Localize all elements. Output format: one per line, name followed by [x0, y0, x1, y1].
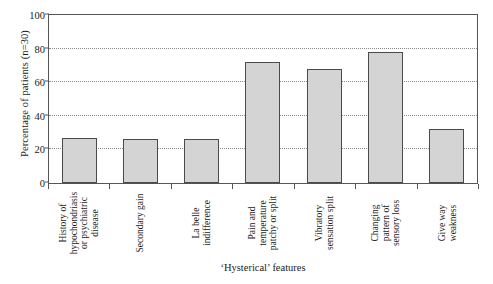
bar-cell [110, 15, 171, 183]
bar[interactable] [368, 52, 403, 183]
x-label-cell: History ofhypochondriasisor psychiatricd… [48, 189, 109, 257]
x-axis-label-line: Give way [437, 189, 448, 257]
x-axis-label: Give wayweakness [437, 189, 458, 257]
y-tick-label-0: 0 [40, 178, 45, 189]
x-axis-label-line: Pain and [247, 189, 258, 257]
x-axis-labels: History ofhypochondriasisor psychiatricd… [48, 189, 478, 257]
x-tickmark [478, 184, 479, 189]
x-axis-label-line: indifference [202, 189, 213, 257]
x-axis-label-line: weakness [447, 189, 458, 257]
bar-cell [232, 15, 293, 183]
x-label-cell: Pain andtemperaturepatchy or split [232, 189, 293, 257]
x-axis-label-line: History of [58, 189, 69, 257]
x-axis-label-line: Secondary gain [135, 189, 146, 257]
bar[interactable] [429, 129, 464, 183]
x-axis-label-line: sensation split [324, 189, 335, 257]
bar[interactable] [62, 138, 97, 183]
x-axis-label-line: disease [89, 189, 100, 257]
x-axis-label-line: Changing [370, 189, 381, 257]
x-axis-label: History ofhypochondriasisor psychiatricd… [58, 189, 100, 257]
bar[interactable] [307, 69, 342, 183]
x-axis-title: ‘Hysterical’ features [48, 262, 478, 273]
y-tick-label-40: 40 [35, 110, 46, 121]
x-axis-label: Pain andtemperaturepatchy or split [247, 189, 279, 257]
bar[interactable] [123, 139, 158, 183]
x-axis-label-line: pattern of [381, 189, 392, 257]
bar-chart: Percentage of patients (n=30) 0204060801… [0, 0, 493, 284]
y-tick-label-20: 20 [35, 144, 46, 155]
x-axis-label: Vibratorysensation split [314, 189, 335, 257]
y-axis-title: Percentage of patients (n=30) [19, 4, 30, 184]
bar-cell [355, 15, 416, 183]
plot-area: 020406080100 [48, 14, 478, 184]
x-label-cell: Changingpattern ofsensory loss [355, 189, 416, 257]
x-label-cell: Secondary gain [109, 189, 170, 257]
bar-cell [416, 15, 477, 183]
x-axis-label: La belleindifference [191, 189, 212, 257]
bar-cell [171, 15, 232, 183]
y-tick-label-80: 80 [35, 43, 46, 54]
x-label-cell: Vibratorysensation split [294, 189, 355, 257]
x-axis-label: Changingpattern ofsensory loss [370, 189, 402, 257]
x-axis-label-line: La belle [191, 189, 202, 257]
x-axis-label-line: temperature [258, 189, 269, 257]
bar-series [49, 15, 477, 183]
bar[interactable] [184, 139, 219, 183]
x-axis-label-line: hypochondriasis [68, 189, 79, 257]
x-axis-label-line: patchy or split [268, 189, 279, 257]
bar-cell [294, 15, 355, 183]
y-tick-label-60: 60 [35, 77, 46, 88]
x-axis-label: Secondary gain [135, 189, 146, 257]
x-axis-label-line: sensory loss [391, 189, 402, 257]
y-tick-label-100: 100 [29, 10, 45, 21]
bar-cell [49, 15, 110, 183]
x-axis-label-line: Vibratory [314, 189, 325, 257]
x-label-cell: La belleindifference [171, 189, 232, 257]
x-axis-label-line: or psychiatric [79, 189, 90, 257]
x-label-cell: Give wayweakness [417, 189, 478, 257]
bar[interactable] [245, 62, 280, 183]
